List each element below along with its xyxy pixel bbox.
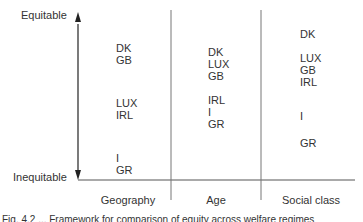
social-class-group-3: I bbox=[300, 110, 303, 122]
country-label: DK bbox=[300, 28, 315, 40]
social-class-group-1: DK bbox=[300, 28, 315, 40]
country-label: GB bbox=[300, 64, 321, 76]
country-label: LUX bbox=[116, 97, 137, 109]
column-label-age: Age bbox=[176, 194, 256, 206]
geography-group-middle: LUX IRL bbox=[116, 97, 137, 121]
axis-label-inequitable: Inequitable bbox=[13, 171, 67, 183]
figure-caption: Fig. 4.2 ... Framework for comparison of… bbox=[2, 214, 314, 222]
column-label-geography: Geography bbox=[88, 194, 168, 206]
column-label-social-class: Social class bbox=[266, 194, 356, 206]
country-label: IRL bbox=[208, 94, 225, 106]
country-label: I bbox=[208, 106, 225, 118]
country-label: IRL bbox=[116, 109, 137, 121]
country-label: GB bbox=[116, 54, 132, 66]
geography-group-bottom: I GR bbox=[116, 152, 133, 176]
social-class-group-2: LUX GB IRL bbox=[300, 52, 321, 88]
age-group-top: DK LUX GB bbox=[208, 46, 229, 82]
country-label: IRL bbox=[300, 76, 321, 88]
country-label: I bbox=[116, 152, 133, 164]
country-label: LUX bbox=[300, 52, 321, 64]
country-label: DK bbox=[208, 46, 229, 58]
country-label: LUX bbox=[208, 58, 229, 70]
country-label: GR bbox=[208, 118, 225, 130]
country-label: GB bbox=[208, 70, 229, 82]
geography-group-top: DK GB bbox=[116, 42, 132, 66]
country-label: DK bbox=[116, 42, 132, 54]
age-group-bottom: IRL I GR bbox=[208, 94, 225, 130]
country-label: GR bbox=[300, 137, 317, 149]
social-class-group-4: GR bbox=[300, 137, 317, 149]
country-label: GR bbox=[116, 164, 133, 176]
arrow-down-icon bbox=[75, 170, 81, 180]
arrow-up-icon bbox=[75, 12, 81, 22]
country-label: I bbox=[300, 110, 303, 122]
axis-label-equitable: Equitable bbox=[21, 9, 67, 21]
